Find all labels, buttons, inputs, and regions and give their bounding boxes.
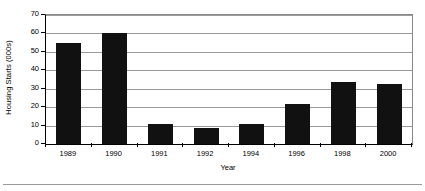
y-axis-tick-label: 40: [31, 65, 39, 73]
x-axis-tick-mark: [320, 143, 321, 147]
x-axis-tick-mark: [91, 143, 92, 147]
plot-area: [45, 14, 413, 145]
bar-slot: [229, 15, 275, 144]
bar-slot: [183, 15, 229, 144]
x-axis-tick-label: 1991: [137, 149, 183, 161]
bar-slot: [138, 15, 184, 144]
x-axis-tick-labels: 19891990199119921994199619982000: [45, 149, 411, 161]
y-axis-tick-label: 60: [31, 28, 39, 36]
x-axis-tick-mark: [182, 143, 183, 147]
x-axis-title: Year: [45, 163, 411, 173]
y-axis-tick-labels: 010203040506070: [14, 0, 45, 191]
bar-slot: [366, 15, 412, 144]
x-axis-tick-mark: [228, 143, 229, 147]
x-axis-tick-mark: [45, 143, 46, 147]
bar[interactable]: [285, 104, 310, 144]
bar-chart-figure: Housing Starts (000s) 010203040506070 19…: [0, 0, 425, 191]
bar[interactable]: [331, 82, 356, 144]
bar-slot: [275, 15, 321, 144]
bar-slot: [321, 15, 367, 144]
bar[interactable]: [377, 84, 402, 144]
bar[interactable]: [102, 33, 127, 144]
footer-divider: [3, 184, 422, 185]
y-axis-tick-label: 10: [31, 121, 39, 129]
bar[interactable]: [239, 124, 264, 144]
y-axis-title-text: Housing Starts (000s): [4, 40, 13, 115]
x-axis-tick-label: 1990: [91, 149, 137, 161]
y-axis-tick-label: 20: [31, 102, 39, 110]
bar[interactable]: [56, 43, 81, 144]
x-axis-tick-label: 1992: [182, 149, 228, 161]
x-axis-tick-mark: [274, 143, 275, 147]
bar[interactable]: [194, 128, 219, 144]
x-axis-tick-label: 1994: [228, 149, 274, 161]
bar[interactable]: [148, 124, 173, 144]
x-axis-tick-label: 1998: [320, 149, 366, 161]
x-axis-tick-mark: [411, 143, 412, 147]
bar-slot: [46, 15, 92, 144]
y-axis-tick-label: 0: [35, 139, 39, 147]
y-axis-tick-label: 70: [31, 10, 39, 18]
x-axis-tick-label: 2000: [365, 149, 411, 161]
y-axis-tick-label: 50: [31, 47, 39, 55]
y-axis-tick-label: 30: [31, 84, 39, 92]
bar-slot: [92, 15, 138, 144]
x-axis-tick-mark: [365, 143, 366, 147]
x-axis-tick-mark: [137, 143, 138, 147]
x-axis-tick-label: 1996: [274, 149, 320, 161]
bar-series: [46, 15, 412, 144]
x-axis-tick-label: 1989: [45, 149, 91, 161]
